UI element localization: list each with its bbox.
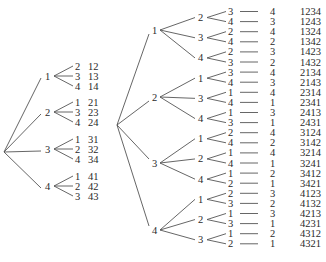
tree-node-level1: 1 — [152, 25, 157, 36]
tree-edge — [207, 199, 226, 203]
tree-node-level4: 1 — [270, 238, 275, 249]
tree-edge — [207, 52, 226, 58]
tree-node-level1: 4 — [45, 181, 51, 192]
tree-edge — [207, 173, 226, 179]
tree-node-level2: 4 — [198, 174, 204, 185]
tree-edge — [4, 114, 41, 152]
tree-edge — [207, 240, 226, 244]
tree-node-level3: 2 — [228, 238, 233, 249]
four-digit-permutation-tree: 1234123443124332413244213424231423321432… — [117, 6, 322, 249]
tree-edge — [207, 220, 226, 224]
tree-node-level2: 2 — [198, 153, 203, 164]
tree-edge — [54, 149, 73, 159]
two-digit-permutation-tree: 1212313414212132342431312324344141242343 — [4, 61, 99, 202]
tree-edge — [207, 32, 226, 38]
tree-edge — [160, 78, 195, 97]
tree-edge — [160, 18, 195, 30]
tree-edge — [207, 72, 226, 78]
tree-node-level2: 4 — [198, 113, 204, 124]
tree-node-level2: 3 — [198, 234, 203, 245]
tree-node-level2: 4 — [75, 117, 81, 128]
tree-edge — [4, 152, 41, 188]
tree-edge — [160, 163, 195, 179]
permutation-result: 4321 — [300, 238, 321, 249]
tree-edge — [207, 179, 226, 183]
tree-node-level1: 3 — [45, 144, 50, 155]
tree-node-level2: 3 — [198, 32, 203, 43]
tree-edge — [160, 97, 195, 98]
tree-edge — [207, 214, 226, 220]
tree-edge — [54, 112, 73, 122]
tree-edge — [207, 119, 226, 123]
tree-node-level2: 1 — [198, 73, 203, 84]
tree-node-level1: 2 — [45, 107, 50, 118]
tree-edge — [207, 153, 226, 159]
tree-node-level2: 1 — [198, 133, 203, 144]
tree-node-level2: 1 — [198, 194, 203, 205]
tree-node-level2: 2 — [198, 12, 203, 23]
tree-edge — [54, 176, 73, 186]
tree-edge — [207, 18, 226, 22]
tree-edge — [160, 199, 195, 230]
tree-edge — [207, 58, 226, 62]
permutation-result: 24 — [88, 117, 99, 128]
tree-edge — [117, 125, 149, 226]
permutation-tree-diagram: 1212313414212132342431312324344141242343… — [0, 0, 326, 262]
tree-edge — [54, 76, 73, 86]
tree-node-level1: 1 — [45, 71, 50, 82]
tree-edge — [207, 38, 226, 42]
permutation-result: 14 — [88, 81, 99, 92]
tree-edge — [117, 125, 149, 159]
tree-edge — [207, 113, 226, 119]
tree-edge — [160, 97, 195, 119]
tree-edge — [207, 133, 226, 139]
tree-node-level2: 4 — [198, 52, 204, 63]
tree-edge — [207, 193, 226, 199]
tree-node-level2: 3 — [75, 191, 80, 202]
tree-edge — [4, 151, 41, 152]
tree-edge — [117, 34, 149, 125]
tree-edge — [54, 66, 73, 76]
permutation-result: 43 — [88, 191, 99, 202]
tree-edge — [54, 186, 73, 196]
tree-edge — [160, 230, 195, 240]
tree-node-level2: 4 — [75, 154, 81, 165]
tree-edge — [207, 92, 226, 98]
tree-node-level2: 3 — [198, 93, 203, 104]
tree-edge — [207, 98, 226, 102]
tree-node-level1: 4 — [152, 225, 158, 236]
tree-node-level1: 3 — [152, 158, 157, 169]
tree-edge — [4, 78, 41, 152]
tree-edge — [207, 139, 226, 143]
tree-edge — [117, 101, 149, 125]
tree-node-level2: 2 — [198, 214, 203, 225]
tree-node-level2: 4 — [75, 81, 81, 92]
tree-edge — [207, 234, 226, 240]
tree-edge — [54, 102, 73, 112]
tree-edge — [54, 139, 73, 149]
tree-edge — [207, 159, 226, 163]
tree-edge — [207, 12, 226, 18]
permutation-result: 34 — [88, 154, 99, 165]
tree-node-level1: 2 — [152, 92, 157, 103]
tree-edge — [160, 220, 195, 230]
tree-edge — [207, 78, 226, 82]
